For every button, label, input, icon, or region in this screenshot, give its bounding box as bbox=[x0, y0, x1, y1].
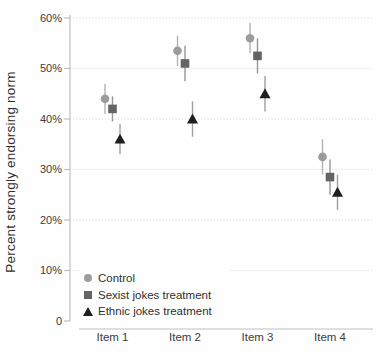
x-category-label-4: Item 4 bbox=[300, 331, 360, 343]
legend: Control Sexist jokes treatment Ethnic jo… bbox=[78, 270, 230, 320]
data-point-triangle bbox=[115, 134, 126, 144]
y-tick-label-20: 20% bbox=[26, 214, 62, 226]
data-point-square bbox=[326, 173, 335, 182]
data-point-square bbox=[108, 105, 117, 114]
legend-item-sexist-jokes: Sexist jokes treatment bbox=[78, 287, 230, 304]
data-point-triangle bbox=[260, 88, 271, 98]
ethnic-triangle-icon bbox=[78, 307, 98, 316]
control-circle-icon bbox=[78, 274, 98, 282]
x-category-label-1: Item 1 bbox=[83, 331, 143, 343]
data-point-circle bbox=[246, 34, 255, 43]
data-point-square bbox=[253, 52, 262, 61]
y-tick-label-10: 10% bbox=[26, 264, 62, 276]
x-category-label-2: Item 2 bbox=[155, 331, 215, 343]
legend-label-control: Control bbox=[98, 272, 135, 284]
figure: Percent strongly endorsing norm 010%20%3… bbox=[0, 0, 386, 355]
data-point-square bbox=[181, 59, 190, 68]
sexist-square-icon bbox=[78, 291, 98, 299]
y-tick-label-0: 0 bbox=[26, 315, 62, 327]
legend-item-control: Control bbox=[78, 270, 230, 287]
data-point-circle bbox=[101, 95, 110, 104]
legend-label-sexist-jokes: Sexist jokes treatment bbox=[98, 289, 211, 301]
legend-label-ethnic-jokes: Ethnic jokes treatment bbox=[98, 305, 212, 317]
y-tick-label-60: 60% bbox=[26, 12, 62, 24]
data-point-triangle bbox=[332, 187, 343, 197]
y-tick-label-50: 50% bbox=[26, 62, 62, 74]
data-point-circle bbox=[318, 153, 327, 162]
data-point-circle bbox=[173, 47, 182, 56]
y-tick-label-30: 30% bbox=[26, 163, 62, 175]
y-tick-label-40: 40% bbox=[26, 113, 62, 125]
x-category-label-3: Item 3 bbox=[228, 331, 288, 343]
legend-item-ethnic-jokes: Ethnic jokes treatment bbox=[78, 303, 230, 320]
